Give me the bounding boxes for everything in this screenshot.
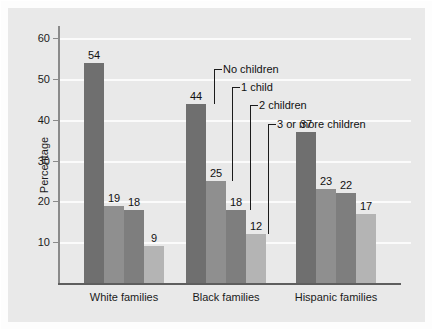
bar-value-label: 22 xyxy=(340,179,352,191)
bar: 44 xyxy=(186,104,206,283)
y-tick xyxy=(53,201,59,202)
bar-value-label: 23 xyxy=(320,175,332,187)
bar: 18 xyxy=(124,210,144,283)
y-tick xyxy=(53,120,59,121)
bar: 23 xyxy=(316,189,336,283)
callout-leader-horizontal xyxy=(250,105,258,106)
y-tick xyxy=(53,242,59,243)
gridline xyxy=(59,38,411,40)
y-tick xyxy=(53,38,59,39)
y-tick-label: 60 xyxy=(38,32,50,44)
y-tick xyxy=(53,161,59,162)
callout-label: No children xyxy=(223,63,279,75)
bar-value-label: 54 xyxy=(88,49,100,61)
y-tick-label: 30 xyxy=(38,155,50,167)
bar: 17 xyxy=(356,214,376,283)
bar-value-label: 44 xyxy=(190,90,202,102)
callout-leader-horizontal xyxy=(268,124,276,125)
bar-value-label: 18 xyxy=(230,196,242,208)
bar-value-label: 19 xyxy=(108,192,120,204)
bar: 12 xyxy=(246,234,266,283)
gridline xyxy=(59,161,411,163)
callout-leader-vertical xyxy=(268,124,269,234)
bar: 25 xyxy=(206,181,226,283)
bar-value-label: 17 xyxy=(360,200,372,212)
bar-value-label: 9 xyxy=(151,232,157,244)
bar: 37 xyxy=(296,132,316,283)
bar: 9 xyxy=(144,246,164,283)
y-tick-label: 40 xyxy=(38,114,50,126)
callout-label: 3 or more children xyxy=(277,118,366,130)
y-tick-label: 10 xyxy=(38,236,50,248)
callout-label: 2 children xyxy=(259,99,307,111)
category-label: White families xyxy=(90,291,158,303)
callout-leader-vertical xyxy=(250,105,251,210)
callout-leader-horizontal xyxy=(232,87,240,88)
category-label: Black families xyxy=(192,291,259,303)
bar-value-label: 25 xyxy=(210,167,222,179)
bar-value-label: 12 xyxy=(250,220,262,232)
bar: 54 xyxy=(84,63,104,283)
y-tick-label: 20 xyxy=(38,195,50,207)
y-tick-label: 50 xyxy=(38,73,50,85)
callout-leader-vertical xyxy=(214,69,215,104)
callout-label: 1 child xyxy=(241,81,273,93)
bar: 22 xyxy=(336,193,356,283)
gridline xyxy=(59,79,411,81)
bar: 19 xyxy=(104,206,124,284)
callout-leader-vertical xyxy=(232,87,233,181)
category-label: Hispanic families xyxy=(295,291,378,303)
callout-leader-horizontal xyxy=(214,69,222,70)
bar: 18 xyxy=(226,210,246,283)
y-tick xyxy=(53,79,59,80)
x-axis-line xyxy=(58,283,401,285)
y-axis-line xyxy=(58,26,60,283)
bar-chart-figure: Percentage 102030405060 5419189442518123… xyxy=(0,0,433,330)
bar-value-label: 18 xyxy=(128,196,140,208)
